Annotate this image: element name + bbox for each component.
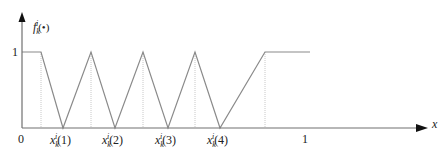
y-label-arg: (•) bbox=[38, 21, 49, 33]
y-tick-1: 1 bbox=[12, 46, 18, 58]
membership-curve bbox=[22, 52, 310, 128]
point-arg: (3) bbox=[162, 133, 176, 147]
point-arg: (4) bbox=[214, 133, 228, 147]
x-axis-label: x bbox=[432, 118, 437, 130]
x-origin-label: 0 bbox=[18, 133, 24, 145]
x-point-label-3: xki(3) bbox=[155, 133, 176, 149]
axes bbox=[22, 20, 418, 128]
y-axis-label: fki(•) bbox=[33, 20, 49, 36]
x-tick-1: 1 bbox=[302, 133, 308, 145]
point-arg: (2) bbox=[109, 133, 123, 147]
x-point-label-1: xki(1) bbox=[50, 133, 71, 149]
x-point-label-2: xki(2) bbox=[102, 133, 123, 149]
x-axis-arrow-icon bbox=[416, 124, 428, 132]
x-point-label-4: xki(4) bbox=[207, 133, 228, 149]
y-axis-arrow-icon bbox=[19, 12, 26, 22]
x-axis-label-text: x bbox=[432, 117, 437, 131]
dotted-guide-lines bbox=[41, 52, 265, 128]
point-arg: (1) bbox=[57, 133, 71, 147]
membership-function-diagram bbox=[0, 0, 445, 153]
